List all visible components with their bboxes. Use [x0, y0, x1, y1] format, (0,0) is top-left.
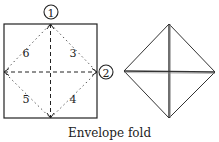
region-label-4: 4 — [70, 93, 77, 106]
region-label-5: 5 — [23, 93, 30, 106]
step-marker-2: 2 — [99, 65, 113, 80]
svg-text:2: 2 — [103, 67, 110, 80]
region-label-3: 3 — [70, 47, 77, 60]
diagram-caption: Envelope fold — [0, 126, 219, 140]
envelope-fold-diagram: 1 2 6 3 5 4 — [0, 0, 219, 142]
svg-text:1: 1 — [48, 7, 55, 20]
folded-envelope — [124, 24, 215, 118]
step-marker-1: 1 — [44, 5, 58, 20]
region-label-6: 6 — [23, 47, 30, 60]
